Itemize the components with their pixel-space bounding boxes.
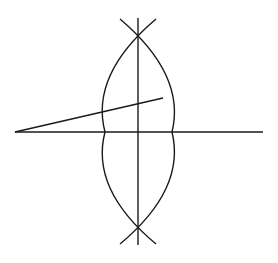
incident-ray	[15, 98, 163, 132]
diagram-svg	[0, 0, 278, 263]
lens-diagram	[0, 0, 278, 263]
